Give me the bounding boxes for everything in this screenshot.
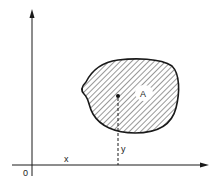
y-label: y bbox=[121, 144, 126, 154]
y-axis bbox=[30, 9, 35, 176]
x-axis bbox=[12, 163, 209, 168]
centroid-dot bbox=[116, 94, 120, 98]
region-a-shape bbox=[82, 59, 179, 133]
x-axis-arrow-icon bbox=[200, 163, 209, 168]
region-label: A bbox=[140, 89, 146, 99]
x-label: x bbox=[64, 154, 69, 164]
origin-label: 0 bbox=[23, 168, 28, 178]
diagram-canvas: A y x 0 bbox=[0, 0, 217, 190]
y-axis-arrow-icon bbox=[30, 9, 35, 18]
